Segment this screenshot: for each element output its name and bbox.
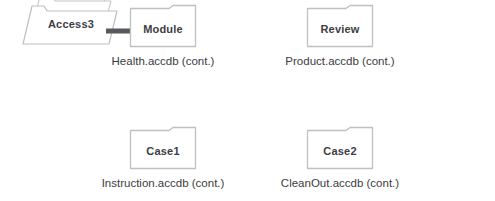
folder-caption: CleanOut.accdb (cont.)	[275, 177, 405, 189]
folder-node-case2[interactable]: Case2 CleanOut.accdb (cont.)	[275, 126, 405, 189]
folder-case1[interactable]: Case1	[129, 126, 197, 170]
folder-caption: Health.accdb (cont.)	[98, 55, 228, 67]
folder-module[interactable]: Module	[129, 4, 197, 48]
folder-node-review[interactable]: Review Product.accdb (cont.)	[275, 4, 405, 67]
folder-case2[interactable]: Case2	[306, 126, 374, 170]
diagram-canvas: Access3 Module Health.accdb (cont.)	[0, 0, 495, 201]
folder-icon	[129, 4, 197, 48]
folder-icon	[306, 126, 374, 170]
folder-caption: Product.accdb (cont.)	[275, 55, 405, 67]
folder-node-case1[interactable]: Case1 Instruction.accdb (cont.)	[98, 126, 228, 189]
folder-review[interactable]: Review	[306, 4, 374, 48]
folder-icon	[306, 4, 374, 48]
folder-node-module[interactable]: Module Health.accdb (cont.)	[98, 4, 228, 67]
folder-icon	[129, 126, 197, 170]
folder-caption: Instruction.accdb (cont.)	[98, 177, 228, 189]
